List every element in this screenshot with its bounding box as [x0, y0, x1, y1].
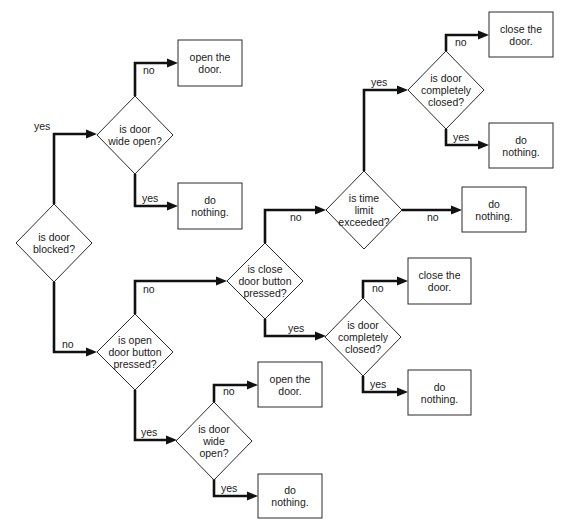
- node-text-line: nothing.: [475, 210, 512, 222]
- edge-d_closed1-to-a_nothing2: yes: [446, 129, 489, 150]
- edge-d_wide1-to-a_open1: no: [135, 59, 178, 97]
- node-text-line: door.: [278, 385, 301, 397]
- connector-line: [364, 90, 397, 171]
- arrowhead-icon: [86, 348, 97, 357]
- decision-node-d_openbtn: is opendoor buttonpressed?: [97, 314, 173, 390]
- decision-node-d_blocked: is doorblocked?: [16, 204, 92, 282]
- edge-d_blocked-to-d_wide1: yes: [34, 120, 97, 204]
- node-text-line: door button: [108, 346, 161, 358]
- node-text-line: blocked?: [33, 243, 75, 255]
- connector-line: [54, 134, 86, 204]
- arrowhead-icon: [247, 492, 258, 501]
- node-text-line: is door: [198, 423, 230, 435]
- arrowhead-icon: [315, 332, 326, 341]
- edge-d_blocked-to-d_openbtn: no: [54, 282, 97, 357]
- decision-node-d_closed2: is doorcompletelyclosed?: [325, 298, 401, 376]
- node-text-line: door.: [198, 63, 221, 75]
- node-text-line: open the: [270, 373, 311, 385]
- edge-d_wide1-to-a_nothing1: yes: [135, 174, 178, 211]
- arrowhead-icon: [315, 206, 326, 215]
- node-text-line: nothing.: [271, 496, 308, 508]
- arrowhead-icon: [397, 86, 408, 95]
- node-text-line: is door: [347, 319, 379, 331]
- arrowhead-icon: [478, 31, 489, 40]
- node-text-line: do: [434, 381, 446, 393]
- edge-label-no: no: [455, 36, 467, 48]
- edge-d_closebtn-to-d_closed2: yes: [265, 319, 326, 341]
- arrowhead-icon: [397, 277, 408, 286]
- node-text-line: door button: [238, 275, 291, 287]
- action-node-a_close2: close thedoor.: [408, 258, 471, 304]
- edge-d_time-to-a_nothing_time: no: [402, 206, 462, 224]
- edge-d_closed1-to-a_close1: no: [446, 31, 489, 52]
- edge-label-no: no: [62, 338, 74, 350]
- node-text-line: closed?: [428, 96, 464, 108]
- arrowhead-icon: [167, 59, 178, 68]
- decision-node-d_closed1: is doorcompletelyclosed?: [408, 51, 484, 129]
- arrowhead-icon: [397, 388, 408, 397]
- edge-d_wide2-to-a_open2: no: [214, 381, 258, 403]
- edge-d_time-to-d_closed1: yes: [364, 76, 408, 171]
- node-text-line: do: [284, 484, 296, 496]
- action-node-a_nothing4: donothing.: [258, 474, 322, 518]
- node-text-line: is door: [430, 72, 462, 84]
- action-node-a_nothing_time: donothing.: [462, 187, 526, 232]
- arrowhead-icon: [216, 277, 227, 286]
- node-text-line: nothing.: [421, 393, 458, 405]
- node-text-line: close the: [418, 269, 460, 281]
- node-text-line: wide open?: [107, 135, 162, 147]
- arrowhead-icon: [86, 130, 97, 139]
- node-text-line: exceeded?: [338, 216, 390, 228]
- node-text-line: completely: [421, 84, 472, 96]
- node-text-line: pressed?: [243, 287, 286, 299]
- decision-node-d_wide2: is doorwideopen?: [176, 402, 252, 480]
- node-text-line: is door: [119, 123, 151, 135]
- node-text-line: close the: [500, 23, 542, 35]
- node-text-line: completely: [338, 331, 389, 343]
- decision-node-d_time: is timelimitexceeded?: [326, 171, 402, 249]
- edge-label-yes: yes: [370, 378, 386, 390]
- edge-label-no: no: [223, 385, 235, 397]
- edge-label-no: no: [372, 282, 384, 294]
- action-node-a_open2: open thedoor.: [258, 362, 322, 407]
- action-node-a_nothing1: donothing.: [178, 183, 242, 229]
- edge-label-no: no: [290, 211, 302, 223]
- arrowhead-icon: [478, 141, 489, 150]
- decision-node-d_closebtn: is closedoor buttonpressed?: [227, 243, 303, 319]
- node-text-line: pressed?: [113, 358, 156, 370]
- node-text-line: is door: [38, 231, 70, 243]
- node-text-line: closed?: [345, 343, 381, 355]
- edge-label-no: no: [427, 211, 439, 223]
- arrowhead-icon: [451, 206, 462, 215]
- node-text-line: wide: [202, 435, 225, 447]
- nodes-layer: is doorblocked?is doorwide open?open the…: [16, 12, 553, 518]
- node-text-line: is time: [349, 192, 379, 204]
- edge-label-yes: yes: [288, 322, 304, 334]
- edge-label-yes: yes: [142, 192, 158, 204]
- edge-d_closed2-to-a_nothing3: yes: [363, 376, 408, 397]
- action-node-a_nothing3: donothing.: [408, 370, 471, 415]
- node-text-line: nothing.: [191, 206, 228, 218]
- edge-label-yes: yes: [34, 120, 50, 132]
- edge-d_openbtn-to-d_closebtn: no: [135, 277, 227, 315]
- node-text-line: do: [488, 198, 500, 210]
- decision-node-d_wide1: is doorwide open?: [97, 96, 173, 174]
- node-text-line: door.: [428, 281, 451, 293]
- edge-d_closebtn-to-d_time: no: [265, 206, 326, 244]
- action-node-a_close1: close thedoor.: [489, 12, 553, 57]
- flowchart-canvas: yesnonoyesnoyesnoyesyesnonoyesnoyesnoyes…: [0, 0, 566, 532]
- node-text-line: open the: [190, 51, 231, 63]
- edge-label-yes: yes: [141, 426, 157, 438]
- node-text-line: nothing.: [502, 146, 539, 158]
- edge-label-yes: yes: [371, 76, 387, 88]
- edge-label-yes: yes: [453, 131, 469, 143]
- node-text-line: door.: [509, 35, 532, 47]
- edge-label-yes: yes: [221, 482, 237, 494]
- arrowhead-icon: [167, 202, 178, 211]
- edge-d_wide2-to-a_nothing4: yes: [214, 479, 258, 501]
- action-node-a_nothing2: donothing.: [489, 123, 553, 168]
- node-text-line: is open: [118, 334, 152, 346]
- edge-d_closed2-to-a_close2: no: [363, 277, 408, 299]
- node-text-line: do: [204, 194, 216, 206]
- edge-label-no: no: [143, 64, 155, 76]
